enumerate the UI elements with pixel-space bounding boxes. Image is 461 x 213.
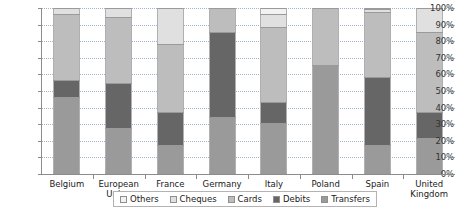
bar-segment-divider <box>260 102 287 103</box>
bar-segment-cards <box>260 28 287 103</box>
x-axis-label-poland: Poland <box>300 179 352 189</box>
y-tick-label: 70% <box>435 54 454 63</box>
bar-segment-transfers <box>209 118 236 174</box>
y-tick-10 <box>38 157 42 158</box>
bar-segment-divider <box>416 32 443 33</box>
bar-group <box>53 8 80 174</box>
y-tick-label: 90% <box>435 20 454 29</box>
bar-segment-transfers <box>260 124 287 174</box>
y-tick-60 <box>38 74 42 75</box>
bar-segment-cheques <box>260 15 287 28</box>
bar-segment-cards <box>364 13 391 78</box>
y-tick-100 <box>38 8 42 9</box>
x-axis-label-france: France <box>145 179 197 189</box>
plot-area <box>41 8 455 174</box>
bar-segment-divider <box>260 27 287 28</box>
y-tick-90 <box>38 25 42 26</box>
y-tick-label: 60% <box>435 70 454 79</box>
bar-stack <box>105 8 132 174</box>
legend-label: Cheques <box>180 195 217 204</box>
chart-legend: OthersChequesCardsDebitsTransfers <box>113 191 377 207</box>
bar-group <box>260 8 287 174</box>
bar-segment-divider <box>105 128 132 129</box>
legend-swatch-icon <box>321 196 328 203</box>
bar-segment-debits <box>209 33 236 118</box>
gridlines <box>41 8 455 174</box>
bar-segment-transfers <box>312 66 339 174</box>
bar-segment-divider <box>364 12 391 13</box>
bar-segment-divider <box>157 112 184 113</box>
y-tick-20 <box>38 141 42 142</box>
bar-stack <box>209 8 236 174</box>
y-tick-label: 10% <box>435 153 454 162</box>
bar-segment-divider <box>157 44 184 45</box>
bar-stack <box>260 8 287 174</box>
bar-segment-cards <box>209 8 236 33</box>
x-axis-label-belgium: Belgium <box>41 179 93 189</box>
y-tick-70 <box>38 58 42 59</box>
bar-group <box>209 8 236 174</box>
legend-label: Debits <box>283 195 310 204</box>
bar-segment-cards <box>53 15 80 81</box>
bar-segment-divider <box>157 145 184 146</box>
bar-segment-divider <box>209 117 236 118</box>
y-tick-label: 40% <box>435 103 454 112</box>
bar-segment-divider <box>105 83 132 84</box>
y-tick-80 <box>38 41 42 42</box>
y-tick-40 <box>38 108 42 109</box>
bar-group <box>157 8 184 174</box>
gridline-30 <box>41 124 455 125</box>
bar-segment-cards <box>312 8 339 66</box>
gridline-100 <box>41 8 455 9</box>
bar-stack <box>364 8 391 174</box>
bar-segment-divider <box>53 97 80 98</box>
bar-segment-transfers <box>364 146 391 174</box>
x-axis <box>41 174 455 175</box>
bar-segment-divider <box>53 14 80 15</box>
bar-segment-divider <box>364 77 391 78</box>
bar-group <box>105 8 132 174</box>
bar-group <box>312 8 339 174</box>
y-tick-label: 20% <box>435 137 454 146</box>
bar-group <box>364 8 391 174</box>
bar-segment-divider <box>364 145 391 146</box>
x-axis-label-spain: Spain <box>352 179 404 189</box>
y-tick-label: 80% <box>435 37 454 46</box>
bar-segment-divider <box>312 65 339 66</box>
legend-swatch-icon <box>273 196 280 203</box>
legend-item-others: Others <box>120 195 159 204</box>
bar-segment-debits <box>157 113 184 146</box>
bar-segment-divider <box>105 17 132 18</box>
bar-segment-divider <box>53 80 80 81</box>
bar-segment-cards <box>157 45 184 113</box>
y-axis <box>41 8 42 175</box>
bar-segment-cards <box>105 18 132 84</box>
legend-label: Cards <box>238 195 262 204</box>
gridline-80 <box>41 41 455 42</box>
x-axis-label-united-kingdom: United Kingdom <box>403 179 455 199</box>
bar-segment-divider <box>364 9 391 10</box>
legend-item-transfers: Transfers <box>321 195 370 204</box>
x-axis-label-germany: Germany <box>196 179 248 189</box>
bar-segment-cheques <box>157 8 184 45</box>
stacked-bar-chart: 0%10%20%30%40%50%60%70%80%90%100% Belgiu… <box>0 0 461 213</box>
bar-segment-transfers <box>105 129 132 174</box>
legend-swatch-icon <box>120 196 127 203</box>
y-tick-label: 30% <box>435 120 454 129</box>
bar-segment-transfers <box>53 98 80 174</box>
y-tick-label: 50% <box>435 87 454 96</box>
y-tick-label: 100% <box>430 4 454 13</box>
bar-segment-debits <box>364 78 391 146</box>
legend-swatch-icon <box>228 196 235 203</box>
bar-segment-debits <box>105 84 132 129</box>
bar-segment-transfers <box>157 146 184 174</box>
gridline-90 <box>41 25 455 26</box>
legend-item-cards: Cards <box>228 195 262 204</box>
legend-label: Others <box>130 195 159 204</box>
bar-segment-divider <box>209 32 236 33</box>
legend-label: Transfers <box>331 195 370 204</box>
legend-item-cheques: Cheques <box>170 195 217 204</box>
gridline-20 <box>41 141 455 142</box>
x-axis-label-italy: Italy <box>248 179 300 189</box>
bar-stack <box>157 8 184 174</box>
